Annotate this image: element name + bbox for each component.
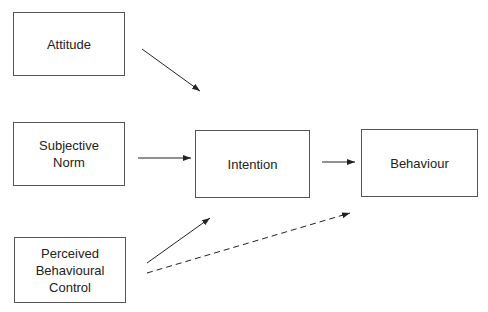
node-subjective-norm: Subjective Norm — [13, 122, 125, 186]
edge-pbc-intention — [147, 218, 210, 263]
node-label: Intention — [228, 156, 278, 173]
node-label: Behaviour — [390, 155, 449, 172]
edge-pbc-behaviour-dashed — [147, 213, 350, 273]
edge-attitude-intention — [142, 49, 200, 91]
node-label: Attitude — [47, 36, 91, 53]
node-label: Perceived Behavioural Control — [36, 245, 105, 296]
node-intention: Intention — [195, 130, 310, 198]
node-perceived-behavioural-control: Perceived Behavioural Control — [14, 237, 126, 303]
node-label: Subjective Norm — [39, 137, 99, 171]
node-attitude: Attitude — [13, 12, 125, 76]
node-behaviour: Behaviour — [361, 129, 478, 197]
